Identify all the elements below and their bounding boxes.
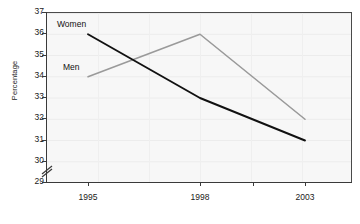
y-tick-label: 37 bbox=[35, 6, 44, 16]
series-label-men: Men bbox=[63, 62, 80, 72]
y-axis-title: Percentage bbox=[10, 39, 19, 123]
y-tick-label: 35 bbox=[35, 49, 44, 59]
y-tick-mark bbox=[42, 118, 47, 119]
x-tick-mark-1998 bbox=[200, 182, 201, 186]
y-tick-label: 33 bbox=[35, 91, 44, 101]
line-chart: Percentage bbox=[0, 0, 360, 224]
series-label-women: Women bbox=[57, 19, 86, 29]
y-tick-label: 31 bbox=[35, 134, 44, 144]
y-tick-mark bbox=[42, 161, 47, 162]
x-tick-label-2003: 2003 bbox=[275, 192, 335, 202]
y-tick-mark bbox=[42, 12, 47, 13]
series-line-men bbox=[88, 34, 305, 119]
axis-break-icon bbox=[40, 163, 54, 181]
plot-area bbox=[47, 12, 352, 182]
x-axis-line bbox=[46, 182, 352, 183]
series-line-women bbox=[88, 34, 305, 140]
x-tick-label-1995: 1995 bbox=[58, 192, 118, 202]
x-tick-mark-unlabeled bbox=[253, 182, 254, 186]
y-tick-label: 32 bbox=[35, 112, 44, 122]
y-tick-mark bbox=[42, 97, 47, 98]
y-tick-label: 34 bbox=[35, 70, 44, 80]
series-lines bbox=[47, 13, 352, 182]
y-tick-mark bbox=[42, 33, 47, 34]
y-tick-label: 36 bbox=[35, 27, 44, 37]
x-tick-mark-2003 bbox=[305, 182, 306, 186]
y-tick-mark bbox=[42, 140, 47, 141]
y-tick-mark bbox=[42, 55, 47, 56]
y-tick-mark bbox=[42, 182, 47, 183]
x-tick-label-1998: 1998 bbox=[170, 192, 230, 202]
y-tick-mark bbox=[42, 76, 47, 77]
x-tick-mark-1995 bbox=[88, 182, 89, 186]
